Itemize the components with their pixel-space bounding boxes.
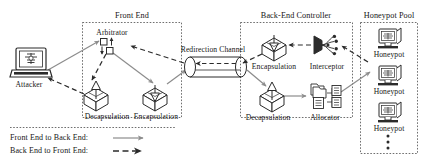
node-label-arbitrator: Arbitrator (96, 28, 127, 37)
flow-allocator-to-honeypot (341, 72, 370, 92)
flow-arbitrator-to-fe-encapsulation (113, 53, 153, 83)
node-label-honeypot-3: Honeypot (374, 124, 405, 133)
group-label-honeypot-pool: Honeypot Pool (364, 11, 415, 20)
flow-channel-to-be-decapsulation (247, 70, 266, 86)
node-label-interceptor: Interceptor (310, 62, 344, 71)
funnel-icon-interceptor (314, 35, 338, 56)
monitor-icon-honeypot-1 (378, 28, 401, 48)
tube-icon-redirection-channel (185, 57, 247, 77)
monitor-icon-honeypot-2 (378, 65, 401, 85)
node-label-honeypot-1: Honeypot (374, 50, 405, 59)
node-label-allocator: Allocator (310, 113, 340, 122)
group-label-back-end-controller: Back-End Controller (261, 11, 331, 20)
node-label-fe-encapsulation: Encapsulation (134, 112, 178, 121)
laptop-icon (10, 48, 52, 77)
open-box-icon-be-encapsulation (262, 35, 286, 61)
node-label-honeypot-2: Honeypot (374, 87, 405, 96)
open-box-icon-fe-decapsulation (84, 81, 108, 111)
node-label-be-encapsulation: Encapsulation (252, 62, 296, 71)
node-label-attacker: Attacker (16, 80, 43, 89)
legend-label-front-to-back: Front End to Back End: (10, 133, 88, 142)
flow-attacker-to-arbitrator (48, 41, 99, 70)
arbitrator-icon (100, 37, 113, 55)
node-label-redirection-channel: Redirection Channel (181, 45, 246, 54)
legend-label-back-to-front: Back End to Front End: (10, 146, 88, 155)
architecture-diagram: Front End Back-End Controller Honeypot P… (0, 0, 425, 163)
group-label-front-end: Front End (115, 11, 149, 20)
flow-arbitrator-to-fe-decapsulation (92, 54, 106, 80)
node-label-be-decapsulation: Decapsulation (246, 113, 291, 122)
open-box-icon-be-decapsulation (260, 82, 284, 112)
flow-honeypot-to-interceptor (342, 46, 368, 62)
monitor-icon-honeypot-3 (378, 102, 401, 122)
flow-fe-decapsulation-to-attacker (48, 78, 84, 94)
vertical-ellipsis-icon (387, 135, 390, 150)
allocator-icon (311, 84, 341, 109)
flow-channel-to-arbitrator (131, 46, 184, 63)
open-box-icon-fe-encapsulation (143, 85, 167, 111)
flow-fe-encapsulation-to-channel (167, 70, 186, 84)
node-label-fe-decapsulation: Decapsulation (85, 112, 130, 121)
